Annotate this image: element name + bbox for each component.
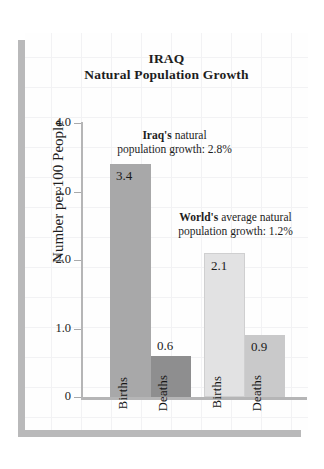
- chart-card: IRAQ Natural Population Growth 4.0 3.0 2…: [25, 33, 308, 430]
- card-shadow-bottom: [18, 430, 301, 437]
- y-tick-label-0: 0: [65, 389, 71, 404]
- y-tick-mark-3: [74, 192, 81, 193]
- y-tick-mark-2: [74, 260, 81, 261]
- bar-label-iraq-deaths: Deaths: [156, 375, 171, 412]
- annotation-iraq-rest: natural: [172, 129, 207, 141]
- annotation-iraq-line-1: Iraq's natural: [87, 129, 262, 143]
- y-axis-line: [81, 122, 83, 399]
- y-tick-label-1: 1.0: [55, 321, 71, 336]
- bar-label-world-deaths: Deaths: [250, 375, 265, 412]
- x-axis-baseline: [81, 397, 307, 400]
- annotation-world-line-2: population growth: 1.2%: [143, 225, 324, 239]
- annotation-world-rest: average natural: [218, 211, 291, 223]
- plot-area: 4.0 3.0 2.0 1.0 0 Number per 100 People: [25, 33, 308, 430]
- bar-label-iraq-births: Births: [116, 377, 131, 409]
- screenshot-root: IRAQ Natural Population Growth 4.0 3.0 2…: [0, 0, 324, 469]
- bar-label-world-births: Births: [210, 376, 225, 408]
- annotation-iraq: Iraq's natural population growth: 2.8%: [87, 129, 262, 156]
- bar-iraq-deaths[interactable]: Deaths: [151, 356, 191, 397]
- bar-value-world-deaths: 0.9: [251, 339, 267, 355]
- y-tick-mark-0: [74, 397, 81, 398]
- y-tick-mark-4: [74, 123, 81, 124]
- bar-value-iraq-deaths: 0.6: [157, 338, 173, 354]
- annotation-world-lead: World's: [179, 211, 218, 223]
- bar-value-world-births: 2.1: [211, 258, 227, 274]
- annotation-world: World's average natural population growt…: [143, 211, 324, 238]
- card-shadow-left: [18, 40, 25, 437]
- annotation-iraq-line-2: population growth: 2.8%: [87, 143, 262, 157]
- annotation-iraq-lead: Iraq's: [142, 129, 171, 141]
- y-tick-mark-1: [74, 329, 81, 330]
- bar-iraq-births[interactable]: Births: [110, 164, 151, 397]
- bar-value-iraq-births: 3.4: [116, 168, 132, 184]
- annotation-world-line-1: World's average natural: [143, 211, 324, 225]
- y-axis-title: Number per 100 People: [50, 97, 67, 287]
- bar-world-births[interactable]: Births: [204, 253, 245, 397]
